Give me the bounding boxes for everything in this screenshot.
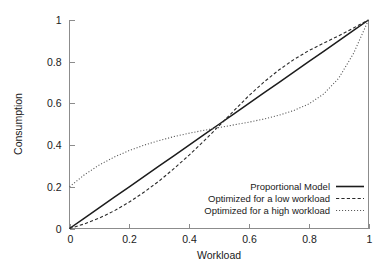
chart-plot-area: 00.20.40.60.81 00.20.40.60.81 Workload C… bbox=[0, 0, 387, 272]
y-axis-ticks: 00.20.40.60.81 bbox=[47, 14, 75, 235]
x-tick-label: 0.6 bbox=[242, 233, 257, 245]
x-tick-label: 1 bbox=[367, 233, 373, 245]
x-tick-label: 0.2 bbox=[122, 233, 137, 245]
x-axis-title: Workload bbox=[197, 249, 241, 261]
y-tick-label: 0.4 bbox=[47, 139, 62, 151]
legend-label-0: Proportional Model bbox=[250, 181, 330, 192]
data-series-2 bbox=[70, 20, 369, 187]
x-tick-label: 0.4 bbox=[182, 233, 197, 245]
x-axis-ticks: 00.20.40.60.81 bbox=[68, 224, 373, 245]
y-tick-label: 0.8 bbox=[47, 56, 62, 68]
y-tick-label: 1 bbox=[56, 14, 62, 26]
y-tick-label: 0 bbox=[56, 223, 62, 235]
y-axis-title: Consumption bbox=[12, 93, 24, 155]
legend-label-2: Optimized for a high workload bbox=[204, 205, 330, 216]
x-tick-label: 0 bbox=[68, 233, 74, 245]
x-tick-label: 0.8 bbox=[302, 233, 317, 245]
legend: Proportional Model Optimized for a low w… bbox=[204, 181, 364, 216]
chart-container: 00.20.40.60.81 00.20.40.60.81 Workload C… bbox=[0, 0, 387, 272]
y-tick-label: 0.2 bbox=[47, 181, 62, 193]
y-tick-label: 0.6 bbox=[47, 97, 62, 109]
legend-label-1: Optimized for a low workload bbox=[208, 193, 330, 204]
